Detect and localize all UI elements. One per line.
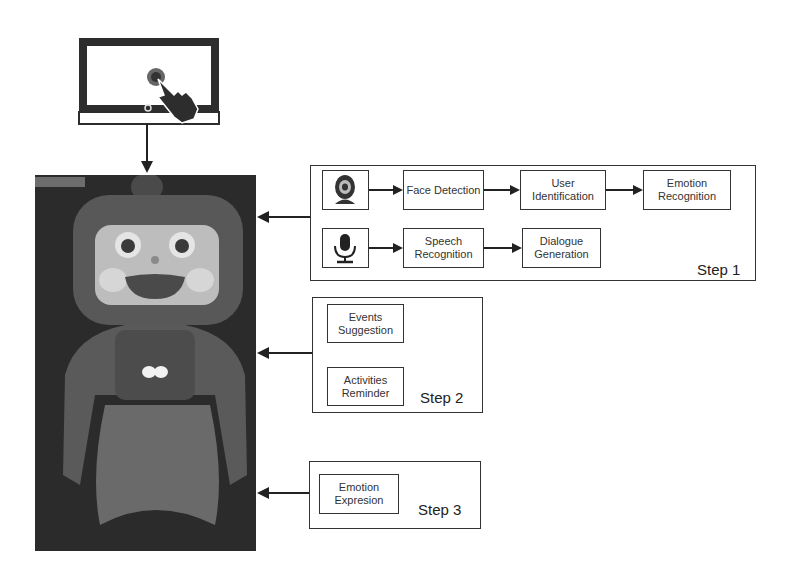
- node-activities-reminder: Activities Reminder: [327, 367, 404, 406]
- step2-label: Step 2: [420, 389, 463, 406]
- arrow-right-icon: [393, 185, 403, 195]
- arrow-right-icon: [393, 243, 403, 253]
- webcam-icon: [323, 171, 367, 208]
- flow-line: [484, 247, 513, 249]
- step3-label: Step 3: [418, 501, 461, 518]
- arrow-left-icon: [257, 487, 269, 499]
- arrow-right-icon: [633, 185, 643, 195]
- robot-photo: [35, 175, 256, 551]
- microphone-icon-box: [322, 228, 369, 268]
- node-speech-recognition: Speech Recognition: [403, 228, 484, 268]
- arrow-left-icon: [257, 347, 269, 359]
- step1-connector: [268, 216, 310, 218]
- step1-label: Step 1: [697, 261, 740, 278]
- node-events-suggestion: Events Suggestion: [327, 304, 404, 343]
- arrow-right-icon: [512, 243, 522, 253]
- flow-line: [369, 189, 394, 191]
- webcam-icon-box: [322, 170, 369, 210]
- flow-line: [369, 247, 394, 249]
- node-dialogue-generation: Dialogue Generation: [522, 228, 601, 268]
- tablet-to-robot-line: [146, 124, 148, 162]
- arrow-down-icon: [141, 161, 153, 173]
- arrow-left-icon: [257, 211, 269, 223]
- arrow-right-icon: [510, 185, 520, 195]
- node-user-identification: User Identification: [520, 170, 606, 210]
- step2-connector: [268, 352, 312, 354]
- node-emotion-recognition: Emotion Recognition: [643, 170, 731, 210]
- tablet-touch-icon: [78, 37, 220, 125]
- flow-line: [606, 189, 634, 191]
- step3-connector: [268, 492, 309, 494]
- microphone-icon: [323, 229, 367, 266]
- flow-line: [484, 189, 511, 191]
- node-face-detection: Face Detection: [403, 170, 484, 210]
- node-emotion-expression: Emotion Expresion: [319, 474, 399, 514]
